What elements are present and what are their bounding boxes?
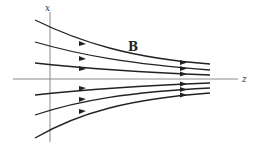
- arrow-icon: [79, 41, 86, 46]
- arrow-icon: [180, 93, 187, 98]
- x-axis-label: x: [45, 3, 50, 13]
- field-line-6: [35, 93, 210, 138]
- arrow-icon: [180, 72, 187, 77]
- arrow-icon: [79, 56, 86, 61]
- field-line-1: [35, 20, 210, 64]
- arrow-icon: [180, 66, 187, 71]
- arrow-icon: [180, 87, 187, 92]
- arrow-icon: [180, 60, 187, 65]
- z-axis-label: z: [241, 74, 247, 84]
- field-label-B: B: [128, 40, 138, 54]
- arrow-icon: [79, 66, 86, 71]
- field-line-diagram: x z B: [0, 0, 260, 149]
- arrow-icon: [180, 82, 187, 87]
- arrow-icon: [79, 109, 86, 114]
